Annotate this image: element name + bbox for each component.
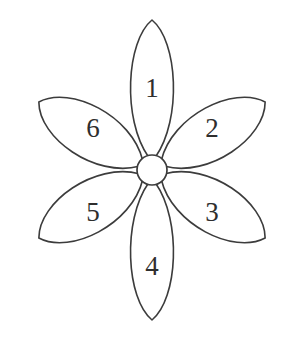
petal-label-3: 3 <box>205 199 219 226</box>
diagram-canvas: 123456 <box>0 0 299 353</box>
petal-label-1: 1 <box>145 75 159 102</box>
flower-diagram <box>0 0 299 353</box>
petal-label-6: 6 <box>86 115 100 142</box>
petal-label-4: 4 <box>145 253 159 280</box>
center-circle[interactable] <box>137 155 167 185</box>
petal-label-5: 5 <box>86 199 100 226</box>
petal-label-2: 2 <box>205 115 219 142</box>
